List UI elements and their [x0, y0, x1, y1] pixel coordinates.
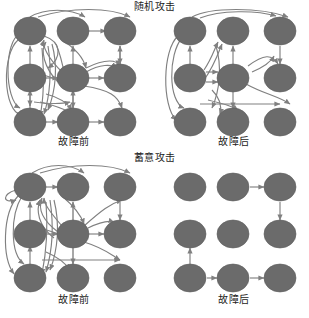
- node: [14, 17, 46, 45]
- node: [104, 220, 136, 248]
- node: [217, 220, 249, 248]
- node: [174, 17, 206, 45]
- node: [104, 64, 136, 92]
- node: [174, 264, 206, 292]
- node: [264, 64, 296, 92]
- node: [217, 173, 249, 201]
- node: [174, 108, 206, 136]
- figure-container: 随机攻击 蓄意攻击: [0, 0, 309, 318]
- panel-random-after: [160, 10, 309, 134]
- node: [264, 220, 296, 248]
- node: [14, 264, 46, 292]
- node-group: [14, 17, 136, 136]
- panel-random-before: [0, 10, 150, 134]
- node: [174, 220, 206, 248]
- node-group: [174, 17, 296, 136]
- node: [57, 220, 89, 248]
- node: [57, 108, 89, 136]
- caption-random-before: 故障前: [34, 136, 114, 148]
- node: [264, 264, 296, 292]
- node: [14, 64, 46, 92]
- node: [217, 108, 249, 136]
- node: [217, 17, 249, 45]
- node: [104, 264, 136, 292]
- node: [57, 173, 89, 201]
- panel-targeted-before: [0, 166, 150, 290]
- node: [57, 64, 89, 92]
- node: [264, 173, 296, 201]
- node-group: [14, 173, 136, 292]
- node-group: [174, 173, 296, 292]
- node: [104, 173, 136, 201]
- node: [57, 17, 89, 45]
- node: [14, 108, 46, 136]
- node: [14, 220, 46, 248]
- node: [264, 108, 296, 136]
- node: [104, 17, 136, 45]
- node: [14, 173, 46, 201]
- node: [57, 264, 89, 292]
- node: [217, 64, 249, 92]
- caption-random-after: 故障后: [194, 136, 274, 148]
- caption-targeted-before: 故障前: [34, 294, 114, 306]
- node: [174, 64, 206, 92]
- section-title-targeted-attack: 蓄意攻击: [0, 152, 309, 164]
- caption-targeted-after: 故障后: [194, 294, 274, 306]
- node: [174, 173, 206, 201]
- panel-targeted-after: [160, 166, 309, 290]
- node: [264, 17, 296, 45]
- node: [104, 108, 136, 136]
- node: [217, 264, 249, 292]
